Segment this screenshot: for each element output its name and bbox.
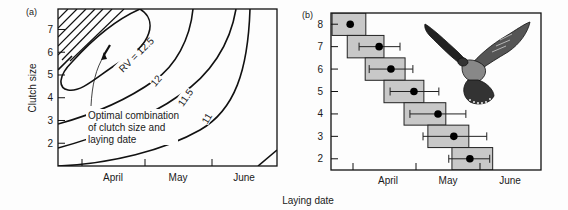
y-tick-label: 2	[47, 138, 53, 149]
x-tick-label: May	[439, 175, 458, 186]
contour-label-11-5: 11.5	[176, 86, 196, 108]
kestrel-illustration	[425, 22, 530, 104]
y-tick-label: 4	[47, 92, 53, 103]
annotation-line-1: Optimal combination	[88, 110, 179, 121]
y-tick-label: 8	[317, 19, 323, 30]
mean-point	[434, 110, 442, 118]
mean-point	[450, 133, 458, 141]
y-tick-label: 4	[317, 108, 323, 119]
mean-point	[375, 43, 383, 51]
y-tick-label: 3	[47, 115, 53, 126]
contour-corner	[258, 150, 277, 166]
mean-point	[346, 20, 354, 28]
annotation-line-2: of clutch size and	[88, 122, 165, 133]
y-tick-label: 6	[317, 64, 323, 75]
y-tick-label: 7	[47, 24, 53, 35]
infeasible-hatch	[58, 9, 124, 61]
mean-point	[466, 155, 474, 163]
x-tick-label: June	[233, 172, 255, 183]
y-tick-label: 2	[317, 153, 323, 164]
optimum-annotation: Optimal combination of clutch size and l…	[86, 109, 179, 145]
tail	[464, 80, 494, 104]
panel-b: (b) 2345678 April May June	[302, 10, 541, 186]
panel-a-label: (a)	[26, 7, 37, 17]
y-tick-label: 5	[317, 86, 323, 97]
head	[458, 58, 468, 66]
y-axis-label: Clutch size	[27, 63, 38, 112]
contour-label-12-5: RV = 12.5	[117, 35, 157, 75]
y-tick-label: 3	[317, 131, 323, 142]
x-tick-label: May	[169, 172, 188, 183]
y-tick-label: 6	[47, 47, 53, 58]
mean-point	[387, 65, 395, 73]
panel-a: (a) RV = 12.5 12	[26, 7, 277, 183]
y-tick-label: 5	[47, 69, 53, 80]
contour-label-11: 11	[200, 111, 215, 126]
mean-point	[410, 88, 418, 96]
figure: (a) RV = 12.5 12	[0, 0, 568, 210]
y-tick-label: 7	[317, 41, 323, 52]
x-tick-label: April	[378, 175, 398, 186]
x-tick-label: June	[499, 175, 521, 186]
x-axis-label: Laying date	[282, 195, 334, 206]
panel-b-label: (b)	[302, 10, 313, 20]
optimum-marker	[104, 45, 110, 55]
annotation-line-3: laying date	[88, 134, 137, 145]
x-tick-label: April	[103, 172, 123, 183]
